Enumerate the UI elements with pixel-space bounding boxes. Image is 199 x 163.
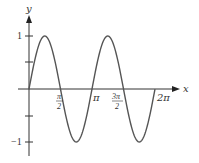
x-tick-label-pi-half-den: 2: [57, 102, 61, 111]
x-axis-label: x: [183, 83, 189, 94]
y-axis-arrow-icon: [26, 15, 32, 23]
y-axis-label: y: [25, 3, 32, 14]
x-axis-arrow-icon: [172, 86, 180, 92]
x-tick-label-pi: π: [92, 92, 100, 103]
y-tick-label-neg-1: −1: [11, 136, 22, 147]
x-tick-label-3pi-half-den: 2: [115, 102, 119, 111]
x-tick-label-3pi-half-num: 3π: [111, 92, 121, 101]
sine-plot: y x 1 −1 π 2 π 3π 2 2π: [0, 0, 199, 163]
y-tick-label-1: 1: [17, 30, 22, 41]
x-tick-label-2pi: 2π: [156, 92, 170, 103]
